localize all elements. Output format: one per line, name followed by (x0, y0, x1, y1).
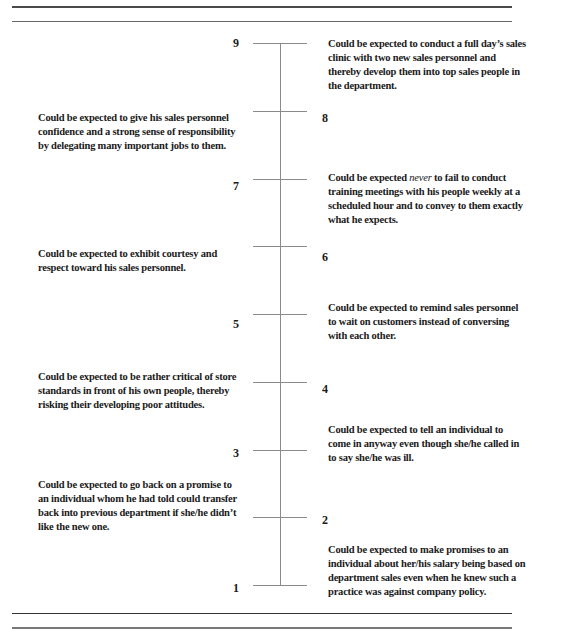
tick-7 (253, 179, 307, 180)
anchor-7-text-before: Could be expected (328, 172, 409, 183)
scale-value-1: 1 (233, 582, 239, 594)
anchor-description-7: Could be expected never to fail to condu… (328, 171, 528, 227)
tick-1 (253, 585, 307, 586)
anchor-description-6: Could be expected to exhibit courtesy an… (38, 247, 238, 275)
anchor-description-9: Could be expected to conduct a full day’… (328, 37, 528, 93)
tick-4 (253, 382, 307, 383)
anchor-description-2: Could be expected to go back on a promis… (38, 478, 238, 534)
top-rule-thick (12, 6, 512, 8)
scale-value-4: 4 (322, 383, 328, 395)
bottom-rule-thin (12, 613, 512, 614)
scale-value-7: 7 (233, 180, 239, 192)
tick-6 (253, 246, 307, 247)
tick-3 (253, 450, 307, 451)
anchor-description-5: Could be expected to remind sales person… (328, 301, 528, 343)
anchor-description-8: Could be expected to give his sales pers… (38, 111, 238, 153)
tick-5 (253, 314, 307, 315)
scale-value-5: 5 (233, 318, 239, 330)
anchor-description-3: Could be expected to tell an individual … (328, 423, 528, 465)
anchor-description-1: Could be expected to make promises to an… (328, 543, 528, 599)
bottom-rule-thick (12, 627, 512, 629)
top-rule-thin (12, 21, 512, 22)
scale-value-9: 9 (233, 37, 239, 49)
scale-value-8: 8 (322, 112, 328, 124)
scale-value-2: 2 (322, 514, 328, 526)
tick-9 (253, 43, 307, 44)
tick-8 (253, 111, 307, 112)
anchor-7-emphasis: never (409, 172, 431, 183)
scale-value-6: 6 (322, 251, 328, 263)
scale-value-3: 3 (233, 447, 239, 459)
anchor-description-4: Could be expected to be rather critical … (38, 370, 238, 412)
tick-2 (253, 517, 307, 518)
